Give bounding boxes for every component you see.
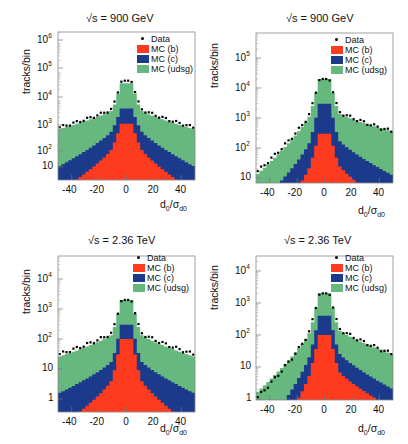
data-point — [387, 128, 389, 130]
data-point — [390, 353, 392, 355]
data-point — [287, 139, 289, 141]
data-point — [284, 142, 286, 144]
data-point — [318, 79, 320, 81]
y-tick-label: 103 — [235, 111, 250, 123]
x-tick-label: 40 — [373, 187, 384, 198]
legend-mc-udsg: MC (udsg) — [331, 283, 387, 293]
data-marker-icon — [331, 36, 343, 44]
legend: Data MC (b) MC (c) MC (udsg) — [331, 35, 387, 75]
data-point — [298, 346, 300, 348]
data-point — [308, 113, 310, 115]
data-point — [287, 360, 289, 362]
data-point — [356, 120, 358, 122]
data-point — [308, 330, 310, 332]
data-point — [294, 132, 296, 134]
data-point — [363, 340, 365, 342]
data-point — [267, 387, 269, 389]
data-point — [305, 339, 307, 341]
mc-udsg-swatch-icon — [331, 284, 343, 292]
mc-b-swatch-icon — [331, 46, 343, 54]
data-point — [359, 119, 361, 121]
data-point — [298, 127, 300, 129]
data-point — [346, 332, 348, 334]
panel-236tev-b: √s = 2.36 TeV tracks/bin Data MC (b) MC … — [0, 222, 408, 444]
legend: Data MC (b) MC (c) MC (udsg) — [331, 253, 387, 293]
mc-c-swatch-icon — [331, 56, 343, 64]
data-point — [294, 353, 296, 355]
data-point — [356, 339, 358, 341]
legend-data: Data — [331, 253, 387, 263]
data-point — [315, 92, 317, 94]
y-tick-label: 104 — [235, 264, 250, 276]
data-point — [335, 318, 337, 320]
data-point — [366, 344, 368, 346]
data-point — [284, 364, 286, 366]
data-point — [315, 307, 317, 309]
x-axis-label: d0/σd0 — [358, 422, 385, 436]
data-point — [274, 376, 276, 378]
data-point — [390, 131, 392, 133]
data-point — [260, 165, 262, 167]
data-point — [332, 306, 334, 308]
panel-900gev-b: √s = 900 GeV tracks/bin Data MC (b) MC (… — [0, 0, 408, 222]
data-point — [380, 129, 382, 131]
data-point — [291, 138, 293, 140]
data-point — [325, 78, 327, 80]
data-point — [274, 153, 276, 155]
data-point — [263, 389, 265, 391]
data-point — [322, 78, 324, 80]
legend-mc-udsg: MC (udsg) — [331, 65, 387, 75]
data-point — [366, 124, 368, 126]
data-point — [376, 347, 378, 349]
data-point — [383, 128, 385, 130]
data-point — [281, 148, 283, 150]
data-point — [311, 102, 313, 104]
data-point — [322, 292, 324, 294]
x-tick-label: -20 — [288, 187, 302, 198]
data-point — [359, 338, 361, 340]
data-point — [349, 333, 351, 335]
data-marker-icon — [331, 254, 343, 262]
data-point — [339, 111, 341, 113]
data-point — [329, 79, 331, 81]
data-point — [373, 344, 375, 346]
legend-mc-b: MC (b) — [331, 263, 387, 273]
data-point — [329, 294, 331, 296]
legend-mc-b: MC (b) — [331, 45, 387, 55]
data-point — [301, 343, 303, 345]
x-tick-label: 40 — [373, 404, 384, 415]
y-tick-label: 102 — [235, 141, 250, 153]
data-point — [353, 337, 355, 339]
y-tick-label: 1 — [246, 392, 252, 403]
mc-b-swatch-icon — [331, 264, 343, 272]
data-point — [270, 157, 272, 159]
x-tick-label: 0 — [321, 404, 327, 415]
data-point — [339, 328, 341, 330]
data-point — [291, 358, 293, 360]
data-point — [342, 115, 344, 117]
x-axis-label: d0/σd0 — [358, 204, 385, 218]
x-tick-label: 20 — [346, 404, 357, 415]
x-tick-label: 20 — [346, 187, 357, 198]
x-tick-label: 0 — [321, 187, 327, 198]
data-point — [349, 115, 351, 117]
legend-mc-c: MC (c) — [331, 55, 387, 65]
x-tick-label: -40 — [260, 187, 274, 198]
data-point — [370, 124, 372, 126]
data-point — [387, 350, 389, 352]
legend-data: Data — [331, 35, 387, 45]
data-point — [305, 121, 307, 123]
data-point — [325, 292, 327, 294]
data-point — [257, 396, 259, 398]
x-tick-label: -40 — [260, 404, 274, 415]
data-point — [311, 318, 313, 320]
data-point — [342, 332, 344, 334]
data-point — [267, 162, 269, 164]
data-point — [301, 124, 303, 126]
data-point — [270, 380, 272, 382]
legend-mc-c: MC (c) — [331, 273, 387, 283]
y-tick-label: 103 — [235, 296, 250, 308]
data-point — [363, 120, 365, 122]
data-point — [257, 170, 259, 172]
data-point — [376, 125, 378, 127]
